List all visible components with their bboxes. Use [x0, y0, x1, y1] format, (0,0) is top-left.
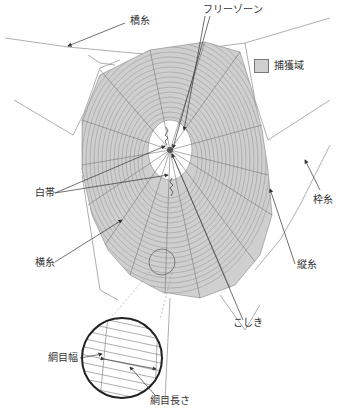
label-frame-thread: 枠糸 [313, 195, 333, 205]
label-free-zone: フリーゾーン [203, 5, 263, 15]
label-bridge-thread: 橋糸 [130, 16, 150, 26]
hub [167, 147, 173, 153]
label-mesh-length: 網目長さ [150, 396, 190, 406]
label-stabilimentum: 白帯 [35, 188, 55, 198]
legend-swatch [254, 59, 269, 73]
label-radial-thread: 縦糸 [297, 260, 317, 270]
label-mesh-width: 網目幅 [48, 353, 78, 363]
label-hub: こしき [233, 318, 263, 328]
magnifier-inset [80, 314, 165, 404]
label-spiral-thread: 横糸 [35, 258, 55, 268]
legend-label-capture-area: 捕獲域 [274, 61, 304, 71]
